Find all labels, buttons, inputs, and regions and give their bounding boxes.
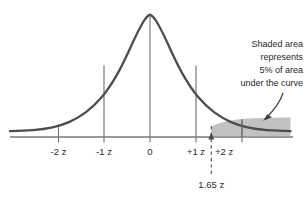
callout-line-4: under the curve — [240, 78, 303, 88]
callout-line-2: represents — [260, 52, 303, 62]
axis-tick-label-plus-1z: +1 z — [187, 146, 205, 157]
callout-line-1: Shaded area — [251, 39, 303, 49]
callout-line-3: 5% of area — [259, 65, 303, 75]
callout-arrow-line — [267, 93, 284, 118]
axis-tick-label-zero: 0 — [147, 146, 152, 157]
axis-tick-label-minus-2z: -2 z — [51, 146, 67, 157]
normal-curve-figure: -2 z -1 z 0 +1 z +2 z 1.65 z Shaded area… — [0, 0, 306, 205]
figure-container: -2 z -1 z 0 +1 z +2 z 1.65 z Shaded area… — [0, 0, 306, 205]
axis-tick-label-minus-1z: -1 z — [96, 146, 112, 157]
marker-label-1-65z: 1.65 z — [198, 179, 224, 190]
axis-tick-label-plus-2z: +2 z — [215, 146, 233, 157]
